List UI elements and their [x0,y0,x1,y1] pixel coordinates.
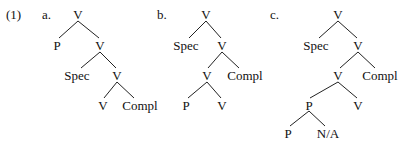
tree-a-label: a. [42,8,51,21]
example-number: (1) [6,8,21,21]
edge [338,82,357,98]
tree-c-node: V [353,99,362,112]
edge [309,111,325,126]
edge [188,82,207,98]
edge [310,82,338,98]
edge [78,21,99,38]
edge [222,52,239,68]
edge [206,21,221,38]
edge [340,52,358,68]
edge [208,52,222,68]
tree-c-node: N/A [317,127,339,140]
tree-b-node: V [201,8,210,21]
edge [117,82,134,98]
tree-b-node: P [182,99,189,112]
tree-a-node: Spec [64,69,89,82]
edge [81,52,100,68]
tree-b-label: b. [157,8,167,21]
tree-c-node: P [305,99,312,112]
edge [319,21,338,38]
tree-a-node: P [53,39,60,52]
tree-c-node: V [333,69,342,82]
edge [100,52,116,68]
edge [104,82,117,98]
tree-a-node: V [95,39,104,52]
tree-a-node: Compl [122,99,157,112]
tree-c-node: Spec [303,39,328,52]
tree-c-label: c. [270,8,279,21]
tree-c-node: V [353,39,362,52]
edge [290,111,309,126]
tree-a-node: V [73,8,82,21]
tree-c-node: Compl [362,69,397,82]
tree-b-node: V [202,69,211,82]
tree-c-node: V [333,8,342,21]
tree-b-node: V [217,99,226,112]
tree-b-node: Compl [227,69,262,82]
tree-b-node: Spec [173,39,198,52]
tree-a-node: V [98,99,107,112]
edge [358,52,375,68]
tree-b-node: V [217,39,226,52]
edge [207,82,221,98]
edge [59,21,78,38]
tree-a-node: V [112,69,121,82]
tree-c-node: P [284,127,291,140]
edge [338,21,357,38]
edge [189,21,206,38]
